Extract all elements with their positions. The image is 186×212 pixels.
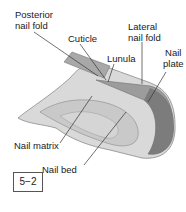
label-lunula: Lunula [107, 53, 136, 64]
label-posterior-nail-fold: Posterior nail fold [15, 9, 53, 31]
label-cuticle: Cuticle [68, 33, 97, 44]
label-nail-bed: Nail bed [42, 164, 77, 175]
label-nail-matrix: Nail matrix [14, 140, 59, 151]
label-nail-plate: Nail plate [163, 47, 184, 69]
label-lateral-nail-fold: Lateral nail fold [128, 21, 161, 43]
figure-number: 5−2 [13, 172, 43, 192]
